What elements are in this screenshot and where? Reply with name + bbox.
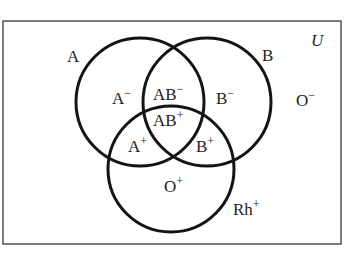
universe-label: U [311,31,325,50]
universe-rectangle [3,21,341,244]
set-label-a: A [67,47,80,66]
venn-diagram: U ABRh+ A−AB−B−AB+A+B+O+O− [0,0,345,258]
set-label-b: B [262,46,273,65]
